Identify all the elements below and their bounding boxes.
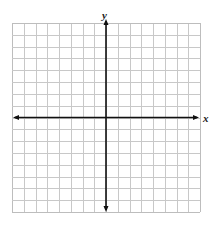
y-axis-label: y bbox=[102, 10, 107, 21]
coordinate-plane bbox=[0, 0, 215, 228]
x-axis-left-arrow-icon bbox=[13, 115, 19, 120]
x-axis-label: x bbox=[203, 113, 209, 124]
x-axis-right-arrow-icon bbox=[193, 115, 199, 120]
y-axis-down-arrow-icon bbox=[104, 206, 109, 212]
